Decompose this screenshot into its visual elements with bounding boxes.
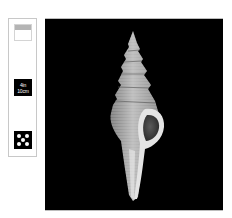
image-view-icon xyxy=(15,25,31,30)
specimen-image xyxy=(45,18,223,211)
zoom-toggle-button[interactable] xyxy=(14,131,32,149)
sidebar-toolbar: 4in 10cm xyxy=(8,18,37,157)
shell-illustration xyxy=(45,19,223,211)
view-thumbnail-button[interactable] xyxy=(14,24,32,41)
scale-label-cm: 10cm xyxy=(17,88,28,94)
scale-toggle-button[interactable]: 4in 10cm xyxy=(14,79,32,96)
